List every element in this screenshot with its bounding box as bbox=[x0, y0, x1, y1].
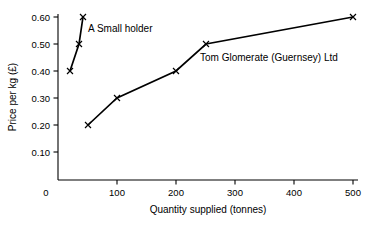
x-tick-label-500: 500 bbox=[345, 187, 361, 198]
x-tick-label-300: 300 bbox=[227, 187, 243, 198]
data-point-marker bbox=[85, 122, 91, 128]
x-tick-label-400: 400 bbox=[286, 187, 302, 198]
y-axis-ticks bbox=[54, 17, 59, 152]
chart-canvas: 0.60 0.50 0.40 0.30 0.20 0.10 Price per … bbox=[0, 0, 371, 229]
y-tick-label-0.20: 0.20 bbox=[32, 120, 51, 131]
data-point-marker bbox=[173, 68, 179, 74]
y-tick-label-0.40: 0.40 bbox=[32, 66, 51, 77]
x-axis-title: Quantity supplied (tonnes) bbox=[150, 204, 267, 215]
data-point-marker bbox=[114, 95, 120, 101]
y-tick-label-0.10: 0.10 bbox=[32, 147, 51, 158]
x-axis-ticks bbox=[117, 180, 353, 185]
x-tick-label-0: 0 bbox=[43, 187, 48, 198]
annotation-a-small-holder: A Small holder bbox=[88, 23, 153, 34]
y-axis-tick-labels: 0.60 0.50 0.40 0.30 0.20 0.10 bbox=[32, 12, 51, 158]
x-tick-label-200: 200 bbox=[168, 187, 184, 198]
series-a-small-holder-line bbox=[70, 17, 83, 71]
supply-curve-chart: 0.60 0.50 0.40 0.30 0.20 0.10 Price per … bbox=[0, 0, 371, 229]
series-a-small-holder bbox=[67, 14, 86, 74]
x-axis: 0 100 200 300 400 500 Quantity supplied … bbox=[43, 180, 361, 215]
y-tick-label-0.30: 0.30 bbox=[32, 93, 51, 104]
y-tick-label-0.60: 0.60 bbox=[32, 12, 51, 23]
x-axis-tick-labels: 0 100 200 300 400 500 bbox=[43, 187, 361, 198]
y-axis-title: Price per kg (£) bbox=[7, 63, 18, 131]
y-tick-label-0.50: 0.50 bbox=[32, 39, 51, 50]
y-axis: 0.60 0.50 0.40 0.30 0.20 0.10 Price per … bbox=[7, 12, 58, 181]
series-a-small-holder-markers bbox=[67, 14, 86, 74]
x-tick-label-100: 100 bbox=[109, 187, 125, 198]
annotation-tom-glomerate: Tom Glomerate (Guernsey) Ltd bbox=[200, 52, 338, 63]
